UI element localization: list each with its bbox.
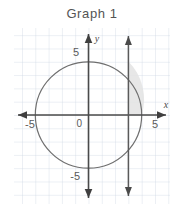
y-tick-label-negative-5: -5 [70,170,80,182]
y-axis-label: y [94,33,100,44]
x-tick-label-5: 5 [152,118,158,130]
grid-background [14,28,170,204]
coordinate-plot: x y -5 5 5 -5 0 [0,0,184,214]
x-tick-label-negative-5: -5 [25,118,35,130]
origin-label: 0 [76,118,82,129]
graph-figure: Graph 1 [0,0,184,214]
y-tick-label-5: 5 [73,46,79,58]
x-axis-label: x [163,99,169,110]
